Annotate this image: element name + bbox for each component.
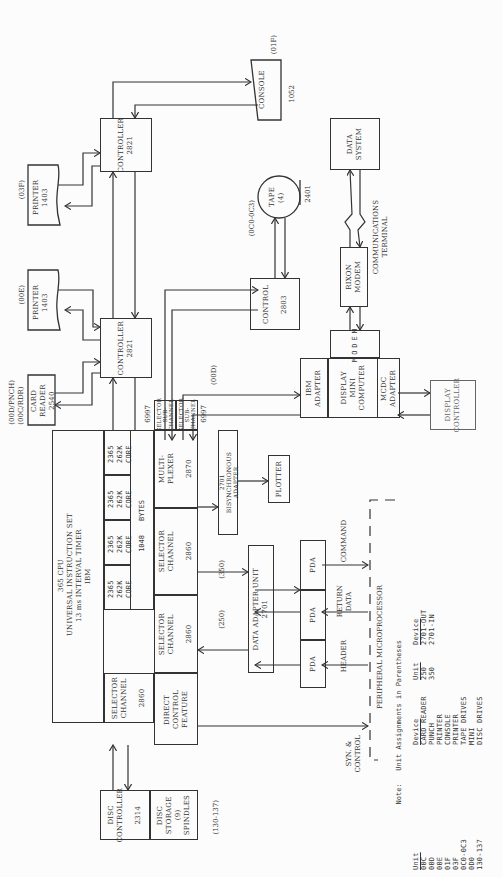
tape-model: 2401 [304, 185, 312, 203]
console-unit: (01F) [270, 35, 278, 54]
disc-unit-label: (130-137) [212, 800, 220, 835]
selector-channel-left-label: SELECTOR CHANNEL 2860 [111, 677, 147, 719]
memory-bytes-total: 1048 [138, 535, 146, 552]
controller-upper: CONTROLLER 2821 [100, 118, 152, 172]
selector-channel-right-label: SELECTOR CHANNEL 2860 [158, 530, 194, 572]
bisync-adapter-label: 2701 BISYNCHRONOUS ADAPTER [218, 452, 239, 513]
console-model: 1052 [288, 85, 296, 103]
controller-upper-label: CONTROLLER 2821 [117, 118, 135, 173]
plotter: PLOTTER [268, 455, 290, 503]
memory-unit-3: 2365 262K CORE [104, 475, 131, 520]
return-data-signal-label: RETURN DATA [336, 585, 354, 617]
unit-00d-label: (00D) [210, 365, 218, 385]
tape-control-label: CONTROL 2803 [262, 285, 289, 324]
syn-control-label: SYN. & CONTROL [345, 735, 363, 773]
printer-00e: PRINTER 1403 [32, 275, 54, 330]
mcdc-adapter: MCDC ADAPTER [378, 358, 400, 418]
mcdc-adapter-label: MCDC ADAPTER [380, 370, 398, 407]
mini-modem: MODEM [330, 330, 380, 358]
direct-control-label: DIRECT CONTROL FEATURE [163, 690, 190, 729]
ibm-adapter-label: IBM ADAPTER [305, 370, 323, 407]
memory-unit-2: 2365 262K CORE [104, 520, 131, 565]
bisync-adapter-2701: 2701 BISYNCHRONOUS ADAPTER [218, 430, 238, 535]
pda-1: PDA [300, 540, 326, 590]
note-table-right-devices: Device 2701-OUT 2701-IN [412, 600, 442, 645]
system-block-diagram: PRINTER 1403 (03F) PRINTER 1403 (00E) CA… [0, 0, 503, 877]
note-table-left: Unit 00C 00D 00E 01F 03F 0C0-0C3 0D0 130… [412, 740, 492, 870]
memory-unit-4: 2365 262K CORE [104, 430, 131, 475]
controller-lower: CONTROLLER 2821 [100, 318, 152, 378]
rixon-modem-label: RIXON MODEM [345, 261, 363, 293]
note-title: Note: Unit Assignments in Parentheses [395, 640, 403, 804]
selector-channel-left: SELECTOR CHANNEL 2860 [104, 673, 154, 723]
subchannel-1-model: 6997 [144, 405, 152, 423]
multiplexer-label: MULTI- PLEXER 2870 [158, 453, 194, 484]
card-reader-unit: (00D/PNCH) (00C/RDR) [8, 380, 26, 425]
selector-subchannel-1: SELECTOR SUB- CHANNEL [154, 400, 176, 430]
display-mini-computer: DISPLAY MINI COMPUTER [328, 358, 378, 418]
disc-controller-label: DISC CONTROLLER 2314 [107, 788, 143, 843]
selector-channel-mid-label: SELECTOR CHANNEL 2860 [158, 613, 194, 655]
display-controller-label: DISPLAY CONTROLLER [444, 378, 462, 433]
tape-unit: (0C0-0C3) [248, 200, 256, 236]
memory-bytes-unit: BYTES [138, 500, 146, 521]
display-mini-label: DISPLAY MINI COMPUTER [340, 365, 367, 410]
disc-storage-label: DISC STORAGE (9) SPINDLES [156, 795, 192, 835]
ibm-adapter: IBM ADAPTER [300, 358, 328, 418]
command-signal-label: COMMAND [340, 520, 348, 562]
data-system-label: DATA SYSTEM [346, 128, 364, 160]
cpu-365: 365 CPU UNIVERSAL INSTRUCTION SET 13 ms … [52, 430, 104, 723]
selector-subchannel-2: SELECTOR SUB- CHANNEL [176, 400, 198, 430]
printer-03f-unit: (03F) [18, 180, 26, 199]
selector-channel-right: SELECTOR CHANNEL 2860 [154, 508, 198, 595]
plotter-label: PLOTTER [275, 461, 284, 497]
rixon-modem: RIXON MODEM [340, 247, 368, 307]
selector-subchannel-2-label: SELECTOR SUB- CHANNEL [178, 398, 196, 432]
memory-unit-1: 2365 262K CORE [104, 565, 131, 610]
multiplexer-2870: MULTI- PLEXER 2870 [154, 430, 198, 508]
selector-subchannel-1-label: SELECTOR SUB- CHANNEL [156, 398, 174, 432]
disc-controller-2314: DISC CONTROLLER 2314 [100, 790, 150, 840]
card-reader: CARD READER 2540 [30, 378, 54, 423]
pda-2: PDA [300, 590, 326, 640]
tape-drives: TAPE (4) [268, 185, 290, 210]
selector-channel-mid: SELECTOR CHANNEL 2860 [154, 595, 198, 673]
mini-modem-label: MODEM [351, 326, 360, 362]
unit-250-label: (250) [218, 610, 226, 629]
data-adapter-unit-2701: DATA ADAPTER UNIT 2701 [248, 545, 274, 673]
subchannel-2-model: 6997 [200, 405, 208, 423]
console: CONSOLE [258, 70, 278, 110]
peripheral-microprocessor-label: PERIPHERAL MICROPROCESSOR [376, 585, 384, 709]
cpu-label: 365 CPU UNIVERSAL INSTRUCTION SET 13 ms … [57, 516, 97, 636]
note-table-right-units: Unit 250 350 [412, 650, 442, 680]
pda-3: PDA [300, 640, 326, 688]
communications-terminal-label: COMMUNICATIONS TERMINAL [372, 200, 390, 274]
disc-storage: DISC STORAGE (9) SPINDLES [150, 790, 198, 840]
header-signal-label: HEADER [340, 640, 348, 672]
note-table-left-devices: Device CARD READER PUNCH PRINTER CONSOLE… [412, 680, 492, 745]
data-adapter-label: DATA ADAPTER UNIT 2701 [252, 568, 270, 650]
controller-lower-label: CONTROLLER 2821 [117, 321, 135, 376]
tape-control-2803: CONTROL 2803 [250, 278, 300, 330]
data-system: DATA SYSTEM [330, 118, 380, 170]
printer-03f: PRINTER 1403 [32, 170, 54, 225]
printer-00e-unit: (00E) [18, 285, 26, 304]
unit-350-label: (350) [218, 560, 226, 579]
direct-control-feature: DIRECT CONTROL FEATURE [154, 673, 198, 745]
display-controller: DISPLAY CONTROLLER [430, 380, 476, 430]
